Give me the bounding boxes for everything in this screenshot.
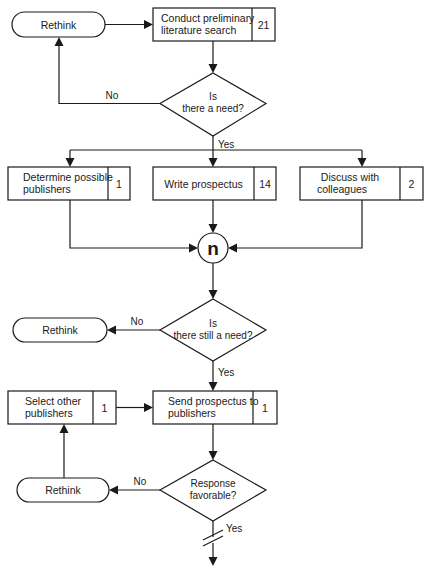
decision-label-line2: favorable?: [190, 490, 237, 501]
arrow-send-to-response: [209, 424, 218, 460]
decision-response-favorable: Response favorable?: [160, 460, 266, 521]
terminal-label: Rethink: [45, 484, 81, 496]
process-count: 14: [259, 178, 271, 190]
process-label-line2: publishers: [23, 183, 71, 195]
connector-n: n: [198, 233, 228, 263]
arrow-rethink-to-search: [105, 20, 153, 29]
arrow-response-no-to-rethink: No: [109, 476, 160, 495]
terminal-label: Rethink: [42, 324, 78, 336]
process-select-other-publishers: Select other publishers 1: [8, 391, 116, 424]
process-literature-search: Conduct preliminary literature search 21: [153, 8, 275, 41]
decision-label-line2: there still a need?: [174, 330, 253, 341]
arrow-select-to-send: [116, 403, 153, 412]
decision-is-there-a-need: Is there a need?: [160, 73, 266, 136]
decision-label-line1: Is: [209, 91, 217, 102]
arrow-rethink-to-select: [60, 424, 69, 478]
process-label-line1: Select other: [25, 395, 82, 407]
connector-label: n: [207, 238, 219, 259]
process-label-line2: publishers: [25, 407, 73, 419]
process-label-line2: colleagues: [317, 183, 367, 195]
arrow-need-no-to-rethink: No: [55, 37, 161, 104]
decision-is-there-still-a-need: Is there still a need?: [160, 299, 266, 361]
arrow-response-yes-continue: Yes: [203, 521, 242, 566]
process-label-line1: Send prospectus to: [168, 395, 259, 407]
terminal-rethink-1: Rethink: [12, 12, 105, 37]
process-determine-publishers: Determine possible publishers 1: [8, 167, 130, 200]
process-label-line2: literature search: [161, 24, 236, 36]
arrow-connector-to-still-need: [209, 263, 218, 299]
arrow-need-yes-split: Yes: [66, 136, 367, 167]
process-label-line1: Determine possible: [23, 171, 113, 183]
terminal-rethink-2: Rethink: [13, 318, 107, 342]
arrow-search-to-need: [209, 41, 218, 73]
process-label-line1: Discuss with: [321, 171, 380, 183]
process-count: 1: [116, 178, 122, 190]
process-count: 21: [258, 19, 270, 31]
yes-label: Yes: [218, 139, 234, 150]
decision-label-line1: Response: [190, 478, 235, 489]
no-label: No: [131, 316, 144, 327]
decision-label-line2: there a need?: [182, 103, 244, 114]
no-label: No: [134, 476, 147, 487]
process-label-line1: Conduct preliminary: [161, 12, 255, 24]
process-count: 1: [262, 402, 268, 414]
arrow-still-need-yes-to-send: Yes: [209, 361, 235, 391]
process-label-line1: Write prospectus: [164, 178, 243, 190]
process-label-line2: publishers: [168, 407, 216, 419]
yes-label: Yes: [218, 367, 234, 378]
arrow-still-need-no-to-rethink: No: [107, 316, 160, 335]
process-write-prospectus: Write prospectus 14: [153, 167, 276, 200]
terminal-label: Rethink: [41, 19, 77, 31]
flowchart-diagram: Rethink Conduct preliminary literature s…: [0, 0, 430, 576]
process-discuss-colleagues: Discuss with colleagues 2: [300, 167, 423, 200]
terminal-rethink-3: Rethink: [17, 478, 109, 502]
process-count: 1: [102, 402, 108, 414]
process-send-prospectus: Send prospectus to publishers 1: [153, 391, 277, 424]
process-count: 2: [409, 178, 415, 190]
yes-label: Yes: [226, 523, 242, 534]
decision-label-line1: Is: [209, 318, 217, 329]
no-label: No: [106, 90, 119, 101]
